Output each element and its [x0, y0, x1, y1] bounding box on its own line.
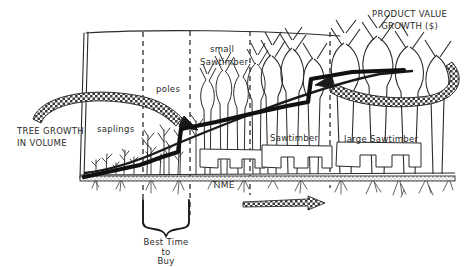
stage-label-large-sawtimber: large Sawtimber: [344, 134, 418, 144]
x-axis-label: TIME: [212, 180, 235, 190]
value-axis-label: PRODUCT VALUE GROWTH ($): [372, 8, 447, 32]
value-axis-label-line1: PRODUCT VALUE: [372, 8, 447, 20]
product-box-large: [336, 142, 421, 167]
stage-label-poles: poles: [156, 84, 180, 94]
stage-label-sawtimber: Sawtimber: [270, 133, 318, 143]
y-axis-label: TREE GROWTH IN VOLUME: [17, 125, 84, 149]
product-boxes: [200, 142, 421, 168]
product-box-sawtimber: [262, 145, 332, 168]
stage-label-small-sawtimber-line1: small: [210, 44, 234, 54]
best-time-brace: [143, 200, 189, 236]
roots: [92, 181, 453, 197]
best-time-line3: Buy: [124, 257, 208, 267]
ground-line: [80, 173, 455, 181]
best-time-to-buy-label: Best Time to Buy: [124, 238, 208, 267]
time-arrow: [243, 196, 325, 210]
stage-label-saplings: saplings: [97, 124, 134, 134]
y-axis-label-line2: IN VOLUME: [17, 137, 84, 149]
value-axis-label-line2: GROWTH ($): [372, 20, 447, 32]
y-axis-label-line1: TREE GROWTH: [17, 125, 84, 137]
product-box-small: [200, 149, 265, 168]
stage-label-small-sawtimber-line2: Sawtimber: [200, 57, 248, 67]
